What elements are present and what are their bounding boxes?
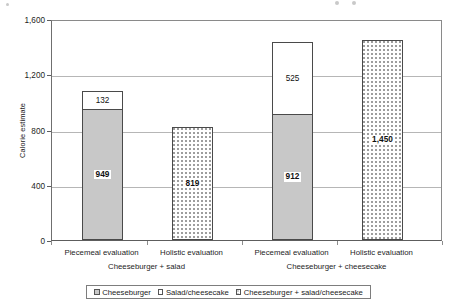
x-axis-group-label: Cheeseburger + salad <box>108 262 185 271</box>
x-axis-category-label: Holistic evaluation <box>350 248 413 257</box>
x-axis-tick <box>51 241 52 245</box>
legend-item: Cheeseburger <box>94 288 151 297</box>
bar-1: 132949 <box>82 91 123 240</box>
legend-label: Salad/cheesecake <box>166 288 229 297</box>
bar-3: 525912 <box>272 42 313 240</box>
bar-value-label: 949 <box>94 170 111 179</box>
y-axis-tick-label: 0 <box>0 237 45 246</box>
y-axis-tick-label: 1,600 <box>0 16 45 25</box>
plot-area: 1329498195259121,450 <box>51 20 442 241</box>
x-axis-category-label: Holistic evaluation <box>160 248 223 257</box>
bar-value-label: 1,450 <box>371 135 395 144</box>
bar-segment-salad-cheesecake: 132 <box>82 91 123 109</box>
bar-segment-cheeseburger-salad-cheesecake: 1,450 <box>362 40 403 240</box>
legend-item: Cheeseburger + salad/cheesecake <box>236 288 363 297</box>
x-axis-category-label: Piecemeal evaluation <box>254 248 328 257</box>
chart-legend: CheeseburgerSalad/cheesecakeCheeseburger… <box>86 285 371 299</box>
scan-speckle <box>352 1 356 5</box>
x-axis-tick <box>337 241 338 245</box>
legend-item: Salad/cheesecake <box>158 288 229 297</box>
scan-speckle <box>6 3 9 6</box>
x-axis-group-label: Cheeseburger + cheesecake <box>287 262 387 271</box>
bar-segment-salad-cheesecake: 525 <box>272 42 313 115</box>
bar-value-label: 525 <box>284 74 301 83</box>
legend-swatch-icon <box>236 289 242 295</box>
bar-value-label: 912 <box>284 172 301 181</box>
bar-segment-cheeseburger: 949 <box>82 109 123 240</box>
bar-value-label: 132 <box>94 96 111 105</box>
legend-swatch-icon <box>158 289 164 295</box>
bar-segment-cheeseburger-salad-cheesecake: 819 <box>172 127 213 240</box>
bar-4: 1,450 <box>362 40 403 240</box>
y-axis-tick-label: 400 <box>0 181 45 190</box>
calorie-estimate-bar-chart: Calorie estimate 04008001,2001,600 13294… <box>0 0 453 306</box>
bar-segment-cheeseburger: 912 <box>272 114 313 240</box>
legend-swatch-icon <box>94 289 100 295</box>
bar-value-label: 819 <box>184 179 201 188</box>
legend-label: Cheeseburger <box>102 288 151 297</box>
legend-items: CheeseburgerSalad/cheesecakeCheeseburger… <box>94 288 363 297</box>
y-axis-tick-label: 1,200 <box>0 71 45 80</box>
x-axis-category-label: Piecemeal evaluation <box>64 248 138 257</box>
x-axis-tick <box>442 241 443 245</box>
x-axis-tick <box>147 241 148 245</box>
scan-speckle <box>335 1 339 5</box>
legend-label: Cheeseburger + salad/cheesecake <box>244 288 363 297</box>
x-axis-tick <box>242 241 243 245</box>
y-axis-tick-label: 800 <box>0 126 45 135</box>
bar-2: 819 <box>172 127 213 240</box>
